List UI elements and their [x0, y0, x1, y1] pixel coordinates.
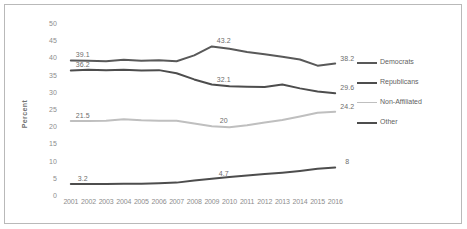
legend-label: Democrats	[380, 57, 414, 66]
y-axis-tick-label: 20	[49, 123, 57, 130]
legend-label: Republicans	[380, 77, 419, 86]
y-axis-tick-label: 40	[49, 54, 57, 61]
y-axis-tick-label: 15	[49, 140, 57, 147]
x-axis-tick-labels: 2001200220032004200520062007200820092010…	[62, 198, 344, 212]
y-axis-tick-label: 30	[49, 88, 57, 95]
x-axis-tick-label: 2012	[256, 198, 274, 212]
x-axis-tick-label: 2003	[97, 198, 115, 212]
x-axis-tick-label: 2013	[274, 198, 292, 212]
x-axis-tick-label: 2010	[221, 198, 239, 212]
legend-line-swatch	[357, 122, 377, 124]
series-line	[71, 167, 335, 184]
y-axis-tick-label: 45	[49, 37, 57, 44]
y-axis-tick-label: 0	[53, 192, 57, 199]
x-axis-tick-label: 2005	[133, 198, 151, 212]
data-point-label: 24.2	[340, 103, 354, 110]
chart-frame: Percent 0510152025303540455039.143.238.2…	[4, 4, 462, 224]
x-axis-tick-label: 2009	[203, 198, 221, 212]
y-axis-tick-label: 25	[49, 106, 57, 113]
legend-item[interactable]: Other	[357, 117, 457, 126]
x-axis-tick-label: 2015	[309, 198, 327, 212]
x-axis-tick-label: 2004	[115, 198, 133, 212]
plot-area: 0510152025303540455039.143.238.236.232.1…	[62, 23, 344, 195]
series-line	[71, 70, 335, 93]
data-point-label: 43.2	[217, 37, 231, 44]
legend-label: Non-Affiliated	[380, 97, 422, 106]
y-axis-tick-label: 50	[49, 20, 57, 27]
data-point-label: 8	[345, 158, 349, 165]
chart-legend: DemocratsRepublicansNon-AffiliatedOther	[357, 57, 457, 137]
series-line	[71, 112, 335, 127]
legend-label: Other	[380, 117, 398, 126]
legend-line-swatch	[357, 82, 377, 84]
x-axis-tick-label: 2008	[185, 198, 203, 212]
legend-item[interactable]: Republicans	[357, 77, 457, 86]
data-point-label: 29.6	[340, 84, 354, 91]
chart-screenshot: Percent 0510152025303540455039.143.238.2…	[0, 0, 467, 229]
data-point-label: 3.2	[78, 175, 88, 182]
data-point-label: 21.5	[76, 112, 90, 119]
y-axis-tick-label: 35	[49, 71, 57, 78]
plot-svg	[62, 23, 344, 195]
data-point-label: 4.7	[219, 170, 229, 177]
legend-item[interactable]: Democrats	[357, 57, 457, 66]
y-axis-tick-label: 10	[49, 157, 57, 164]
data-point-label: 36.2	[76, 61, 90, 68]
x-axis-tick-label: 2016	[326, 198, 344, 212]
y-axis-title: Percent	[21, 100, 28, 128]
x-axis-tick-label: 2014	[291, 198, 309, 212]
legend-line-swatch	[357, 62, 377, 64]
data-point-label: 32.1	[217, 76, 231, 83]
legend-line-swatch	[357, 102, 377, 103]
x-axis-tick-label: 2001	[62, 198, 80, 212]
y-axis-tick-label: 5	[53, 174, 57, 181]
data-point-label: 39.1	[76, 51, 90, 58]
x-axis-tick-label: 2011	[238, 198, 256, 212]
data-point-label: 20	[220, 117, 228, 124]
x-axis-tick-label: 2002	[80, 198, 98, 212]
legend-item[interactable]: Non-Affiliated	[357, 97, 457, 106]
series-line	[71, 46, 335, 65]
data-point-label: 38.2	[340, 55, 354, 62]
x-axis-tick-label: 2007	[168, 198, 186, 212]
x-axis-tick-label: 2006	[150, 198, 168, 212]
